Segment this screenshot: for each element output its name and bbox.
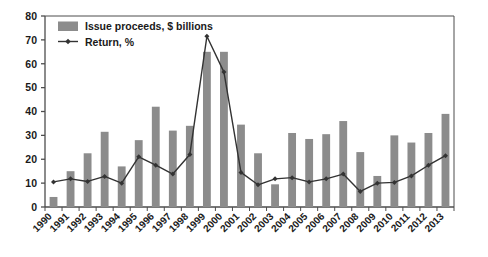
line-marker-2003 (273, 176, 278, 181)
bar-2008 (356, 152, 364, 207)
bar-1996 (152, 107, 160, 207)
bar-1990 (50, 197, 58, 207)
bar-2010 (390, 135, 398, 207)
bar-1993 (101, 132, 109, 207)
legend-label-issue-proceeds: Issue proceeds, $ billions (85, 20, 213, 32)
bar-2013 (442, 114, 450, 207)
y-tick-label: 50 (25, 81, 37, 93)
bar-2003 (271, 184, 279, 207)
bar-1994 (118, 166, 126, 207)
x-tick-label: 2013 (422, 210, 446, 234)
bar-1995 (135, 140, 143, 207)
bar-2002 (254, 153, 262, 207)
bar-2004 (288, 133, 296, 207)
chart-container: 0102030405060708019901991199219931994199… (0, 0, 488, 257)
bar-1999 (203, 52, 211, 207)
chart-legend: Issue proceeds, $ billionsReturn, % (58, 20, 213, 48)
line-marker-1990 (51, 179, 56, 184)
bar-2012 (425, 133, 433, 207)
bar-2005 (305, 139, 313, 207)
y-tick-label: 0 (31, 201, 37, 213)
bar-series (50, 52, 450, 207)
line-marker-1999 (204, 34, 209, 39)
y-tick-label: 10 (25, 177, 37, 189)
y-tick-label: 20 (25, 153, 37, 165)
y-tick-label: 30 (25, 129, 37, 141)
y-tick-label: 70 (25, 34, 37, 46)
legend-swatch-bar (58, 22, 78, 32)
y-tick-label: 80 (25, 10, 37, 22)
bar-2006 (322, 134, 330, 207)
bar-2001 (237, 125, 245, 207)
bar-2007 (339, 121, 347, 207)
bar-2009 (373, 176, 381, 207)
legend-label-return: Return, % (85, 36, 135, 48)
y-tick-label: 60 (25, 58, 37, 70)
y-tick-label: 40 (25, 105, 37, 117)
line-series (51, 34, 448, 194)
chart-plot: 0102030405060708019901991199219931994199… (0, 0, 488, 257)
return-line (54, 36, 446, 191)
legend-marker-diamond (65, 39, 71, 45)
x-axis-ticks: 1990199119921993199419951996199719981999… (30, 207, 454, 234)
bar-1997 (169, 131, 177, 207)
y-axis-ticks: 01020304050607080 (25, 10, 45, 213)
